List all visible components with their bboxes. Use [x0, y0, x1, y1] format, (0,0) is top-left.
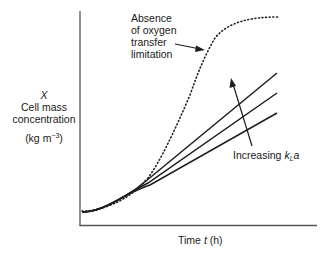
annotation-increasing-kla: Increasing kLa [233, 149, 299, 161]
kla-a: a [294, 149, 300, 161]
y-axis-unit: (kg m−3) [8, 132, 80, 144]
x-axis-label: Time t (h) [178, 234, 223, 246]
growth-line-high-kla [82, 73, 277, 212]
y-unit-close: ) [59, 132, 63, 144]
annotation-line: Absence [131, 12, 201, 24]
annotation-line: limitation [131, 48, 201, 60]
x-label-pre: Time [178, 234, 204, 246]
y-axis-label: X Cell mass concentration (kg m−3) [8, 89, 80, 144]
annotation-line: transfer [131, 36, 201, 48]
arrowhead-icon [230, 78, 237, 88]
annotation-line: of oxygen [131, 24, 201, 36]
growth-line-low-kla [82, 113, 277, 212]
y-axis-variable: X [8, 89, 80, 101]
x-label-unit: (h) [207, 234, 223, 246]
y-unit-base: (kg m [25, 132, 51, 144]
annotation-unlimited: Absence of oxygen transfer limitation [131, 12, 201, 60]
y-axis-name: Cell mass concentration [12, 101, 75, 125]
annotation-text: Increasing [233, 149, 284, 161]
